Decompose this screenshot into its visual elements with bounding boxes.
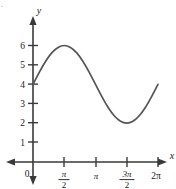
xtick-3pi-over-2-numerator: 3π	[121, 169, 132, 179]
sine-curve	[33, 46, 158, 124]
y-axis-up-arrow-icon	[29, 16, 36, 25]
xtick-label-2pi: 2π	[151, 171, 161, 181]
figure-container: . 6 5 4 3 2 1	[0, 0, 176, 189]
y-axis-down-arrow-icon	[29, 176, 36, 185]
xtick-3pi-over-2-denominator: 2	[125, 180, 130, 189]
y-axis-tick-labels: 6 5 4 3 2 1	[20, 41, 25, 148]
ytick-label-1: 1	[20, 138, 25, 148]
y-axis	[29, 16, 36, 185]
ytick-label-3: 3	[20, 99, 25, 109]
ytick-label-5: 5	[20, 60, 25, 70]
xtick-pi-over-2-numerator: π	[62, 169, 67, 179]
x-axis-label: x	[169, 150, 175, 161]
x-axis-right-arrow-icon	[158, 158, 167, 165]
x-axis-left-arrow-icon	[6, 158, 15, 165]
xtick-label-pi: π	[94, 171, 99, 181]
sine-curve-plot: 6 5 4 3 2 1 0 π 2 π 3π 2	[0, 0, 176, 189]
xtick-pi-over-2-denominator: 2	[62, 180, 67, 189]
x-axis	[6, 158, 167, 165]
ytick-label-2: 2	[20, 118, 25, 128]
ytick-label-4: 4	[20, 80, 25, 90]
origin-label: 0	[25, 169, 30, 179]
y-axis-label: y	[36, 5, 42, 16]
xtick-label-3pi-over-2: 3π 2	[120, 169, 135, 189]
xtick-label-pi-over-2: π 2	[59, 169, 70, 189]
ytick-label-6: 6	[20, 41, 25, 51]
